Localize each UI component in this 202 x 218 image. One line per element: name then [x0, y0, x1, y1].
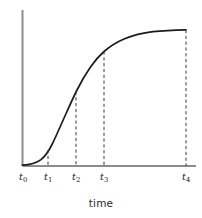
x-tick-label-t1: t1 — [44, 172, 52, 182]
x-tick-sub-t3: 3 — [104, 176, 108, 184]
x-tick-label-t0: t0 — [19, 172, 27, 182]
x-axis-title: time — [0, 198, 202, 209]
x-tick-sub-t2: 2 — [76, 176, 80, 184]
x-tick-sub-t4: 4 — [186, 176, 190, 184]
x-tick-label-t4: t4 — [182, 172, 190, 182]
x-tick-sub-t0: 0 — [23, 176, 27, 184]
x-tick-label-t2: t2 — [72, 172, 80, 182]
chart-plot-area — [0, 0, 202, 218]
x-tick-sub-t1: 1 — [48, 176, 52, 184]
x-tick-label-t3: t3 — [100, 172, 108, 182]
growth-curve-figure: t0 t1 t2 t3 t4 time — [0, 0, 202, 218]
